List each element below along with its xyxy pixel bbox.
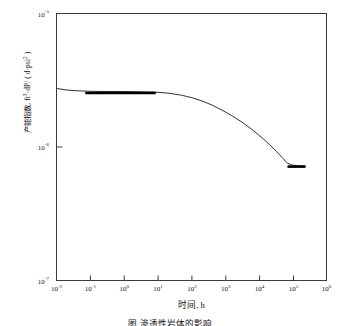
y-tick-label: 10-6: [38, 142, 49, 151]
y-tick-label: 10-5: [38, 9, 49, 18]
x-tick-label: 104: [255, 284, 265, 293]
x-tick-label: 102: [187, 284, 197, 293]
figure-container: 10-2 10-1 100 101 102 103 104 105 106 10…: [0, 0, 340, 326]
x-tick-label: 105: [289, 284, 299, 293]
plot-frame: [57, 14, 327, 281]
x-tick-label: 10-2: [51, 284, 62, 293]
x-tick-label: 106: [322, 284, 332, 293]
y-tick-label: 10-7: [38, 276, 49, 285]
x-tick-label: 103: [221, 284, 231, 293]
x-tick-label: 10-1: [85, 284, 96, 293]
chart-canvas: [0, 0, 340, 326]
y-axis-label: 产能指数, ft3·dP/ ( d·psi2 ): [23, 7, 32, 177]
figure-caption: 图 渗透性岩体的影响: [0, 317, 340, 326]
x-tick-label: 101: [153, 284, 163, 293]
x-axis-label: 时间, h: [56, 298, 327, 310]
x-tick-label: 100: [119, 284, 129, 293]
